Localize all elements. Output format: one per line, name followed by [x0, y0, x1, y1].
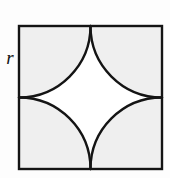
radius-label-r: r [2, 47, 18, 69]
square-with-four-arcs-diagram [0, 0, 170, 178]
geometry-figure: r [0, 0, 170, 178]
